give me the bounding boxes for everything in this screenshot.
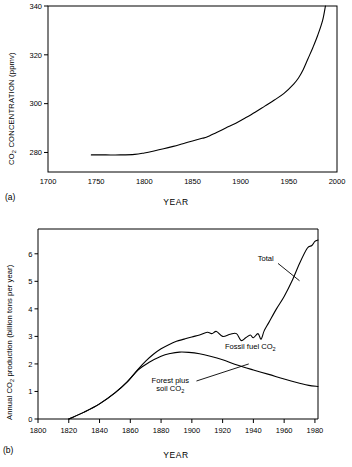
chart-b-y-tick-label: 0: [28, 415, 32, 424]
svg-text:CO2 CONCENTRATION (ppmv): CO2 CONCENTRATION (ppmv): [7, 52, 17, 165]
chart-a-x-axis-title: YEAR: [163, 197, 189, 207]
panel-letter-b: (b): [3, 445, 14, 455]
chart-a-y-tick-label: 300: [29, 99, 42, 108]
chart-a-y-tick-label: 340: [29, 2, 42, 11]
chart-panel-b: Annual CO2 production (billion tons per …: [0, 215, 352, 467]
chart-a-x-tick-label: 1850: [184, 177, 201, 186]
chart-b-curve-total: [69, 240, 318, 419]
chart-b-x-tick-label: 1940: [245, 426, 262, 435]
chart-b-x-tick-label: 1880: [153, 426, 170, 435]
chart-b-y-axis-title: Annual CO2 production (billion tons per …: [5, 264, 15, 420]
chart-a-x-tick-label: 1900: [232, 177, 249, 186]
chart-a-x-tick-label: 1950: [280, 177, 297, 186]
chart-a-y-axis-title: CO2 CONCENTRATION (ppmv): [7, 52, 17, 165]
chart-b-y-tick-label: 4: [28, 305, 32, 314]
chart-b-y-tick-label: 6: [28, 250, 32, 259]
chart-b-plot-area: 0123456180018201840186018801900192019401…: [28, 229, 323, 435]
chart-b-curve-forest-soil: [69, 352, 318, 419]
chart-a-y-tick-label: 320: [29, 51, 42, 60]
chart-b-x-tick-label: 1980: [307, 426, 324, 435]
annotation-soil-co2: soil CO2: [156, 384, 184, 394]
chart-a-curve-co2: [91, 6, 325, 155]
chart-b-x-tick-label: 1960: [276, 426, 293, 435]
chart-b-x-tick-label: 1860: [122, 426, 139, 435]
chart-b-svg: Annual CO2 production (billion tons per …: [0, 215, 352, 467]
figure-container: CO2 CONCENTRATION (ppmv) 280300320340170…: [0, 0, 352, 467]
chart-b-x-tick-label: 1900: [184, 426, 201, 435]
chart-a-x-tick-label: 1700: [40, 177, 57, 186]
chart-b-x-axis-title: YEAR: [163, 450, 189, 460]
svg-text:Annual CO2 production (billi: Annual CO2 production (billion tons per …: [5, 264, 15, 420]
chart-b-y-tick-label: 2: [28, 360, 32, 369]
chart-panel-a: CO2 CONCENTRATION (ppmv) 280300320340170…: [0, 0, 352, 215]
chart-a-x-tick-label: 1800: [136, 177, 153, 186]
chart-b-y-tick-label: 1: [28, 387, 32, 396]
chart-a-svg: CO2 CONCENTRATION (ppmv) 280300320340170…: [0, 0, 352, 215]
chart-b-x-tick-label: 1820: [60, 426, 77, 435]
annotation-total: Total: [258, 254, 274, 263]
chart-a-y-tick-label: 280: [29, 148, 42, 157]
chart-a-frame: [48, 6, 337, 172]
chart-b-y-tick-label: 3: [28, 332, 32, 341]
chart-b-x-tick-label: 1840: [91, 426, 108, 435]
chart-a-plot-area: 2803003203401700175018001850190019502000: [29, 2, 345, 186]
annotation-fossil-fuel-co2: Fossil fuel CO2: [225, 342, 276, 352]
leader-line-forest-soil: [196, 364, 248, 381]
chart-b-y-tick-label: 5: [28, 277, 32, 286]
chart-a-x-tick-label: 2000: [329, 177, 346, 186]
chart-b-x-tick-label: 1920: [214, 426, 231, 435]
panel-letter-a: (a): [5, 192, 16, 202]
chart-a-x-tick-label: 1750: [88, 177, 105, 186]
chart-b-x-tick-label: 1800: [30, 426, 47, 435]
